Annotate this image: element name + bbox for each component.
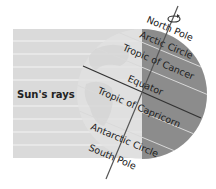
sun-rays-label: Sun's rays xyxy=(17,89,75,100)
earth-tilt-diagram: North Pole Arctic Circle Tropic of Cance… xyxy=(0,0,216,189)
